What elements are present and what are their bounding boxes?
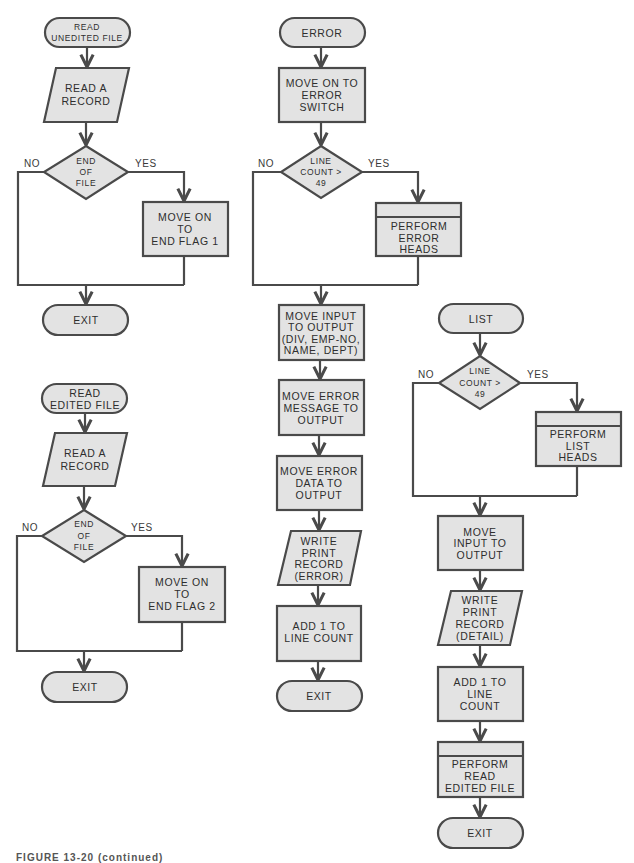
io-label: READ A bbox=[65, 82, 107, 94]
flowchart-read-edited-file: READ EDITED FILE READ A RECORD END OF FI… bbox=[17, 384, 225, 702]
terminal-label: EDITED FILE bbox=[50, 399, 120, 411]
yes-branch-line bbox=[128, 172, 184, 201]
process-label: ERROR bbox=[302, 89, 343, 101]
io-label: RECORD bbox=[294, 558, 343, 570]
terminal-label: ERROR bbox=[302, 27, 343, 39]
decision-label: FILE bbox=[74, 542, 94, 552]
process-label: INPUT TO bbox=[453, 537, 506, 549]
branch-yes-label: YES bbox=[527, 369, 549, 380]
process-label: END FLAG 2 bbox=[148, 600, 215, 612]
terminal-label: UNEDITED FILE bbox=[51, 33, 123, 43]
decision-label: END bbox=[76, 156, 96, 166]
terminal-label: EXIT bbox=[72, 681, 98, 693]
process-label: OUTPUT bbox=[298, 414, 345, 426]
decision-label: OF bbox=[77, 531, 90, 541]
process-label: NAME, DEPT) bbox=[284, 344, 358, 356]
process-label: MOVE ERROR bbox=[280, 465, 358, 477]
io-label: READ A bbox=[64, 447, 106, 459]
process-label: LINE bbox=[467, 688, 493, 700]
process-label: LINE COUNT bbox=[284, 632, 354, 644]
process-label: ADD 1 TO bbox=[293, 620, 346, 632]
decision-label: END bbox=[74, 519, 94, 529]
process-label: COUNT bbox=[460, 700, 500, 712]
process-label: OUTPUT bbox=[457, 549, 504, 561]
io-label: PRINT bbox=[463, 606, 498, 618]
process-label: HEADS bbox=[558, 451, 597, 463]
decision-label: COUNT > bbox=[459, 378, 501, 388]
process-label: MESSAGE TO bbox=[283, 402, 358, 414]
decision-label: 49 bbox=[316, 178, 327, 188]
process-label: ADD 1 TO bbox=[454, 676, 507, 688]
decision-label: OF bbox=[79, 167, 92, 177]
io-label: WRITE bbox=[462, 594, 499, 606]
branch-yes-label: YES bbox=[368, 158, 390, 169]
branch-yes-label: YES bbox=[131, 522, 153, 533]
flowchart-error: ERROR MOVE ON TO ERROR SWITCH LINE COUNT… bbox=[253, 18, 461, 711]
branch-no-label: NO bbox=[24, 158, 40, 169]
io-label: RECORD bbox=[455, 618, 504, 630]
decision-label: 49 bbox=[475, 389, 486, 399]
process-label: MOVE ON TO bbox=[286, 77, 359, 89]
branch-yes-label: YES bbox=[135, 158, 157, 169]
yes-branch-line bbox=[520, 383, 577, 411]
decision-label: COUNT > bbox=[300, 167, 342, 177]
io-label: RECORD bbox=[60, 460, 109, 472]
process-label: MOVE ON bbox=[158, 211, 212, 223]
io-label: (DETAIL) bbox=[456, 630, 504, 642]
decision-label: LINE bbox=[310, 156, 331, 166]
process-label: DATA TO bbox=[295, 477, 342, 489]
process-label: END FLAG 1 bbox=[151, 235, 218, 247]
process-label: PERFORM bbox=[452, 758, 509, 770]
yes-branch-line bbox=[362, 172, 418, 202]
io-label: (ERROR) bbox=[294, 570, 343, 582]
process-label: OUTPUT bbox=[296, 489, 343, 501]
terminal-label: READ bbox=[74, 22, 100, 32]
io-label: WRITE bbox=[301, 535, 338, 547]
process-label: PERFORM bbox=[550, 428, 607, 440]
process-label: MOVE ERROR bbox=[282, 390, 360, 402]
branch-no-label: NO bbox=[418, 369, 434, 380]
terminal-label: LIST bbox=[469, 313, 494, 325]
terminal-label: READ bbox=[69, 387, 101, 399]
process-label: READ bbox=[464, 770, 496, 782]
process-label: TO bbox=[177, 223, 193, 235]
terminal-label: EXIT bbox=[73, 314, 99, 326]
decision-label: FILE bbox=[76, 178, 96, 188]
process-label: PERFORM bbox=[391, 220, 448, 232]
io-label: RECORD bbox=[61, 95, 110, 107]
yes-branch-line bbox=[126, 536, 182, 566]
process-label: HEADS bbox=[399, 243, 438, 255]
process-label: TO bbox=[174, 588, 190, 600]
process-label: MOVE ON bbox=[155, 576, 209, 588]
terminal-label: EXIT bbox=[306, 690, 332, 702]
terminal-label: EXIT bbox=[467, 827, 493, 839]
flowchart-read-unedited-file: READ UNEDITED FILE READ A RECORD END OF … bbox=[18, 18, 228, 335]
decision-label: LINE bbox=[469, 366, 490, 376]
branch-no-label: NO bbox=[22, 522, 38, 533]
process-label: SWITCH bbox=[299, 101, 344, 113]
figure-caption: FIGURE 13-20 (continued) bbox=[16, 852, 163, 863]
flowchart-list: LIST LINE COUNT > 49 NO YES PERFORM LIST… bbox=[413, 304, 621, 848]
process-label: TO OUTPUT bbox=[288, 321, 354, 333]
process-label: EDITED FILE bbox=[445, 782, 515, 794]
branch-no-label: NO bbox=[258, 158, 274, 169]
